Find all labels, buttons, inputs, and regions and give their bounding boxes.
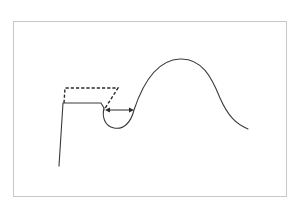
arrowhead-left-icon: [105, 108, 110, 113]
diagram-frame: [14, 22, 287, 197]
wall-and-ledge-line: [59, 103, 104, 166]
diagram-figure: [0, 0, 300, 202]
dashed-overhang-outline: [64, 88, 118, 110]
dimension-arrow: [105, 108, 134, 113]
notch-and-hump-curve: [103, 59, 248, 129]
